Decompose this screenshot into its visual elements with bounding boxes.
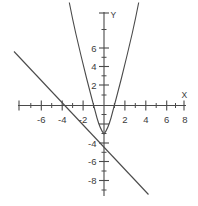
y-tick-label: 4 — [91, 61, 96, 72]
y-tick-label: 2 — [91, 80, 96, 91]
x-tick-label: 2 — [122, 114, 127, 125]
y-axis-group — [99, 12, 109, 196]
y-tick-label: 6 — [91, 43, 96, 54]
y-axis-label: Y — [111, 10, 117, 20]
x-tick-label: -6 — [37, 114, 45, 125]
x-tick-label: -2 — [79, 114, 87, 125]
y-tick-labels: 6 4 2 -4 -6 -8 — [88, 43, 96, 187]
y-tick-label: -8 — [88, 175, 96, 186]
x-tick-label: -4 — [58, 114, 66, 125]
y-tick-label: -4 — [88, 138, 96, 149]
x-tick-label: 6 — [164, 114, 169, 125]
x-tick-label: 8 — [182, 114, 187, 125]
x-tick-label: 4 — [143, 114, 148, 125]
x-axis-group — [18, 101, 186, 111]
x-axis-label: X — [182, 90, 188, 100]
y-tick-label: -6 — [88, 156, 96, 167]
coordinate-plane-figure: -6 -4 -2 2 4 6 8 6 4 2 -4 -6 -8 X Y — [0, 0, 198, 206]
x-tick-labels: -6 -4 -2 2 4 6 8 — [37, 114, 188, 125]
graph-screenshot: -6 -4 -2 2 4 6 8 6 4 2 -4 -6 -8 X Y — [0, 0, 198, 206]
